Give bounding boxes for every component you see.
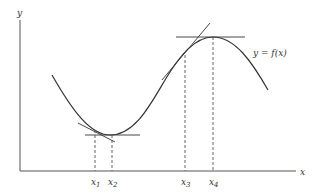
label-x1: x1 (91, 177, 101, 189)
x-axis-label: x (300, 167, 305, 177)
label-x3: x3 (181, 177, 191, 189)
y-axis-label: y (16, 8, 23, 18)
curve-label: y = f(x) (252, 48, 287, 58)
tangent-line-x3 (162, 23, 210, 80)
diagram-canvas: y x x1 x2 x3 x4 y = f(x) (0, 0, 318, 195)
label-x4: x4 (209, 177, 219, 189)
label-x2: x2 (108, 177, 118, 189)
tangent-line-x1 (78, 123, 115, 142)
function-curve (52, 37, 268, 135)
